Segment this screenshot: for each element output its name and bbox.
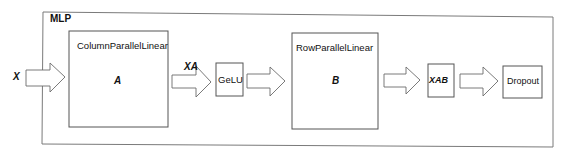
input-label: X xyxy=(13,71,20,82)
dropout-label: Dropout xyxy=(507,76,539,86)
column-parallel-linear-title: ColumnParallelLinear xyxy=(77,40,168,51)
mlp-diagram-canvas xyxy=(0,0,562,157)
row-parallel-linear-title: RowParallelLinear xyxy=(296,42,373,53)
xab-label: XAB xyxy=(429,75,448,85)
gelu-label: GeLU xyxy=(218,74,243,85)
column-parallel-linear-symbol: A xyxy=(114,75,121,86)
row-parallel-linear-symbol: B xyxy=(332,75,339,86)
mlp-container-label: MLP xyxy=(50,13,71,24)
edge-label-xa: XA xyxy=(184,61,198,72)
